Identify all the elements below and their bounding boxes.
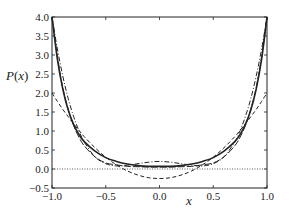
x-tick-label: 0.5 — [206, 190, 220, 202]
y-tick-label: 1.5 — [35, 106, 49, 118]
y-tick-label: 0.5 — [35, 144, 49, 156]
series-dash-dot — [52, 17, 267, 166]
x-tick-label: −0.5 — [96, 190, 116, 202]
y-tick-label: 3.0 — [35, 49, 49, 61]
series-layer — [52, 17, 267, 179]
x-tick-label: 1.0 — [260, 190, 274, 202]
y-axis-label: P(x) — [5, 68, 28, 83]
series-solid — [52, 17, 267, 166]
y-tick-label: 3.5 — [35, 30, 49, 42]
plot-frame — [52, 17, 267, 188]
x-axis-ticks: −1.0−0.50.00.51.0 — [42, 17, 274, 202]
y-tick-label: 2.5 — [35, 68, 49, 80]
y-tick-label: 2.0 — [35, 87, 49, 99]
y-tick-label: 1.0 — [35, 125, 49, 137]
series-long-dash — [52, 17, 267, 167]
y-axis-label-paren-close: ) — [24, 68, 28, 83]
x-tick-label: 0.0 — [153, 190, 167, 202]
line-chart: −1.0−0.50.00.51.0 4.03.53.02.52.01.51.00… — [0, 0, 289, 214]
y-axis-label-p: P — [5, 68, 14, 83]
y-tick-label: 4.0 — [35, 11, 49, 23]
y-tick-label: 0.0 — [35, 163, 49, 175]
y-tick-label: −0.5 — [29, 182, 49, 194]
x-axis-label: x — [185, 193, 192, 208]
